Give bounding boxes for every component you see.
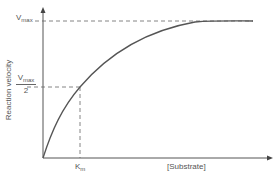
y-axis-arrow-icon	[41, 7, 46, 13]
vmax-label: Vmax	[16, 14, 33, 23]
x-axis-arrow-icon	[267, 156, 273, 161]
half-vmax-label: Vmax 2	[16, 73, 36, 95]
x-axis-label: [Substrate]	[167, 163, 206, 171]
saturation-curve	[43, 21, 253, 158]
chart-canvas	[0, 0, 279, 178]
fraction-bar	[16, 84, 36, 85]
y-axis-label: Reaction velocity	[4, 60, 13, 120]
km-label: Km	[75, 163, 85, 172]
